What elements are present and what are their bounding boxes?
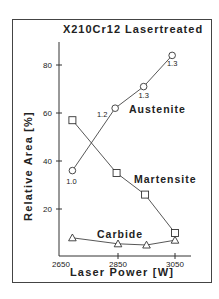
data-annotation: 1.3 (167, 59, 177, 68)
data-point-austenite (69, 167, 76, 174)
data-point-martensite (172, 230, 179, 237)
series-label-martensite: Martensite (134, 173, 197, 185)
series-label-carbide: Carbide (97, 228, 143, 240)
x-axis-label: Laser Power [W] (70, 266, 174, 278)
data-point-carbide (171, 236, 179, 243)
y-tick-label: 20 (43, 205, 52, 214)
chart: X210Cr12 Lasertreated 20406080 265028503… (0, 0, 219, 299)
series-label-austenite: Austenite (129, 103, 186, 115)
y-tick-label: 60 (43, 109, 52, 118)
data-point-austenite (169, 52, 176, 59)
data-point-carbide (69, 234, 77, 241)
y-axis-label: Relative Area [%] (22, 111, 34, 221)
data-point-austenite (140, 83, 147, 90)
y-tick-label: 40 (43, 157, 52, 166)
data-point-martensite (113, 170, 120, 177)
data-point-martensite (142, 191, 149, 198)
data-point-austenite (112, 105, 119, 112)
data-annotation: 1.3 (138, 91, 148, 100)
x-tick-label: 2650 (52, 260, 70, 269)
data-point-martensite (69, 117, 76, 124)
y-tick-label: 80 (43, 61, 52, 70)
data-annotation: 1.0 (66, 177, 76, 186)
data-annotation: 1.2 (97, 110, 107, 119)
chart-title: X210Cr12 Lasertreated (63, 23, 203, 35)
